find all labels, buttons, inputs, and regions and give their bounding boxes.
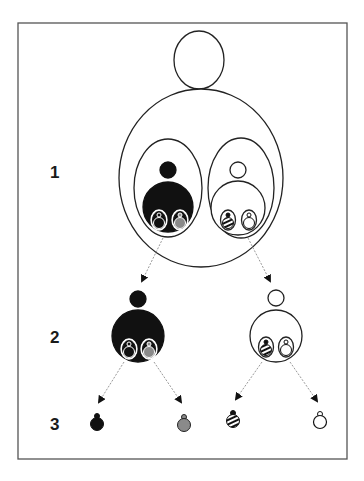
black-ornament-l2 (124, 347, 135, 358)
striped-ornament-l2 (261, 345, 272, 356)
gray-ornament-l1 (175, 218, 186, 229)
right-figure-head (268, 290, 284, 306)
level-label-3: 3 (50, 415, 59, 434)
right-figure-body (250, 310, 302, 362)
black-ornament (91, 414, 104, 431)
striped-ornament (227, 411, 240, 428)
left-sub-head (160, 162, 176, 178)
parent-head (174, 31, 224, 89)
striped-ornament-l1 (223, 218, 234, 229)
white-ornament-l1 (244, 218, 255, 229)
level-2-right-figure (250, 290, 302, 362)
nesting-diagram: 1 2 3 (0, 0, 364, 481)
right-sub-body (211, 181, 265, 235)
left-figure-head (130, 291, 146, 307)
right-sub-head (230, 162, 246, 178)
gray-ornament-l2 (144, 347, 155, 358)
level-label-2: 2 (50, 328, 59, 347)
black-ornament-l1 (154, 218, 165, 229)
arrows-level-2-to-3 (99, 362, 317, 402)
white-ornament (314, 412, 327, 429)
white-ornament-l2 (281, 345, 292, 356)
level-2-left-figure (112, 291, 164, 362)
gray-ornament (178, 415, 191, 432)
level-label-1: 1 (50, 163, 59, 182)
level-1-parent-figure (119, 31, 283, 267)
